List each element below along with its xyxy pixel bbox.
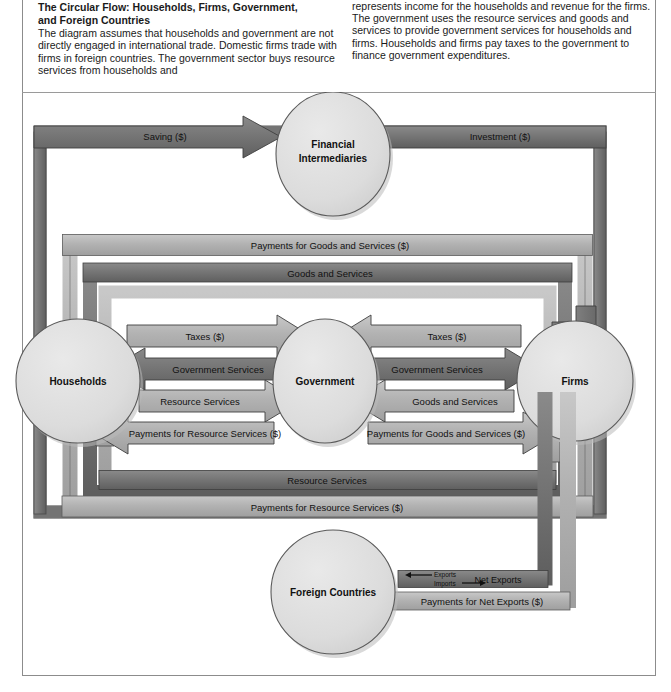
caption-rule-right	[655, 0, 656, 92]
node-foreign-countries: Foreign Countries	[271, 530, 398, 658]
flow-label-taxes-left: Taxes ($)	[185, 331, 224, 342]
flow-label-investment: Investment ($)	[470, 131, 531, 142]
band-payments-resource-services: Payments for Resource Services ($)	[62, 496, 593, 517]
flow-label-imports: Imports	[434, 580, 456, 588]
flow-label-payments-goods-services: Payments for Goods and Services ($)	[251, 240, 409, 251]
flow-label-payments-resource-services: Payments for Resource Services ($)	[251, 502, 404, 513]
flow-label-taxes-right: Taxes ($)	[427, 331, 466, 342]
page-root: The Circular Flow: Households, Firms, Go…	[0, 0, 671, 692]
flow-label-resource-services: Resource Services	[287, 475, 367, 486]
flow-label-goods-services-center: Goods and Services	[412, 396, 498, 407]
flow-label-payments-goods-center: Payments for Goods and Services ($)	[367, 428, 525, 439]
flow-label-saving: Saving ($)	[143, 131, 186, 142]
flow-label-payments-net-exports: Payments for Net Exports ($)	[421, 596, 543, 607]
caption-title-line2: and Foreign Countries	[38, 13, 338, 26]
flow-label-resource-services-center: Resource Services	[160, 396, 240, 407]
flow-label-exports: Exports	[434, 571, 457, 579]
flow-label-payments-resource-center: Payments for Resource Services ($)	[129, 428, 282, 439]
caption-column-right: represents income for the households and…	[352, 0, 652, 62]
caption-title-line1: The Circular Flow: Households, Firms, Go…	[38, 0, 338, 13]
caption-column-left: The Circular Flow: Households, Firms, Go…	[38, 0, 338, 76]
flow-label-goods-and-services: Goods and Services	[287, 268, 373, 279]
circular-flow-diagram: Saving ($) Investment ($) Payments for G…	[0, 92, 671, 692]
caption-block: The Circular Flow: Households, Firms, Go…	[0, 0, 671, 92]
flow-saving: Saving ($)	[34, 116, 281, 158]
flow-investment: Investment ($)	[382, 126, 606, 148]
flow-label-government-services-left: Government Services	[172, 364, 264, 375]
node-label-households: Households	[49, 376, 107, 387]
caption-body-right: represents income for the households and…	[352, 0, 652, 62]
node-label-government: Government	[296, 376, 356, 387]
caption-rule-left	[22, 0, 23, 92]
node-label-foreign-countries: Foreign Countries	[290, 587, 377, 598]
caption-body-left: The diagram assumes that households and …	[38, 27, 338, 77]
node-financial-intermediaries: Financial Intermediaries	[276, 92, 393, 220]
flow-label-government-services-right: Government Services	[391, 364, 483, 375]
node-label-firms: Firms	[561, 376, 589, 387]
node-label-financial-intermediaries-line2: Intermediaries	[299, 153, 368, 164]
node-label-financial-intermediaries-line1: Financial	[311, 139, 355, 150]
flow-government-services-right: Government Services	[372, 348, 540, 390]
